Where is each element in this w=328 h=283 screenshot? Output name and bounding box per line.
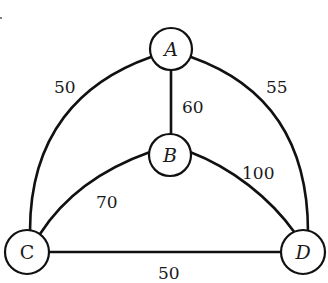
edge-label-a-d: 55: [266, 77, 288, 97]
edge-b-c: [40, 152, 150, 234]
edge-label-c-d: 50: [158, 263, 180, 283]
graph-diagram: 50 55 60 70 100 50 A B C D: [0, 0, 328, 283]
node-a-label: A: [162, 38, 178, 60]
edge-a-d: [191, 57, 308, 232]
edge-a-c: [30, 57, 151, 231]
node-c: C: [5, 230, 49, 274]
node-b-label: B: [162, 144, 177, 166]
edge-label-a-c: 50: [54, 77, 76, 97]
edge-label-b-d: 100: [242, 163, 274, 183]
node-c-label: C: [20, 241, 35, 263]
node-b: B: [149, 134, 191, 176]
edge-label-a-b: 60: [182, 97, 204, 117]
node-d: D: [281, 230, 325, 274]
scan-artifact: [0, 17, 2, 19]
edge-label-b-c: 70: [96, 192, 118, 212]
node-a: A: [150, 28, 192, 70]
node-d-label: D: [294, 241, 310, 263]
